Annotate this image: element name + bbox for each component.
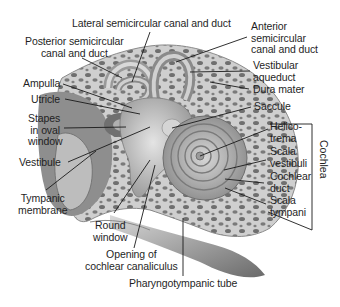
label-vestibular-aqueduct: Vestibular aqueduct (253, 60, 298, 83)
label-ampulla: Ampulla (23, 78, 60, 90)
label-scala-vestibuli: Scala vestibuli (270, 146, 307, 169)
label-helicotrema: Helico- trema (270, 121, 302, 144)
cochlea-spiral (163, 116, 247, 200)
label-posterior-semicircular-canal: Posterior semicircular canal and duct (25, 36, 124, 59)
label-round-window: Round window (93, 220, 127, 243)
label-dura-mater: Dura mater (253, 84, 305, 96)
label-pharyngotympanic-tube: Pharyngotympanic tube (129, 278, 237, 290)
label-anterior-semicircular-canal: Anterior semicircular canal and duct (251, 21, 318, 56)
label-opening-of-cochlear-canaliculus: Opening of cochlear canaliculus (85, 249, 178, 272)
label-vestibule: Vestibule (19, 157, 61, 169)
inner-ear-diagram: Lateral semicircular canal and duct Post… (0, 0, 340, 307)
label-cochlear-duct: Cochlear duct (270, 171, 311, 194)
label-tympanic-membrane: Tympanic membrane (18, 193, 67, 216)
label-stapes-in-oval-window: Stapes in oval window (28, 113, 60, 148)
label-lateral-semicircular-canal: Lateral semicircular canal and duct (72, 18, 231, 30)
label-cochlea: Cochlea (318, 140, 330, 179)
label-scala-tympani: Scala tympani (270, 195, 306, 218)
label-utricle: Utricle (31, 94, 60, 106)
label-saccule: Saccule (254, 101, 291, 113)
